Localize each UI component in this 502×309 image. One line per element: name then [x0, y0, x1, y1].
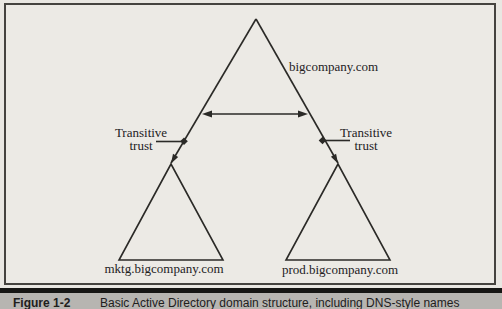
scanned-book-figure-page: bigcompany.com Transitive trust Transiti…: [0, 0, 502, 309]
figure-caption-text: Basic Active Directory domain structure,…: [100, 296, 459, 309]
figure-caption-bar: Figure 1-2 Basic Active Directory domain…: [0, 293, 502, 309]
right-transitive-trust-label: Transitive trust: [330, 126, 402, 152]
figure-border-box: [4, 3, 496, 285]
left-transitive-trust-label: Transitive trust: [105, 126, 177, 152]
left-transitive-trust-line2: trust: [105, 139, 177, 152]
right-transitive-trust-line2: trust: [330, 139, 402, 152]
root-domain-label: bigcompany.com: [289, 60, 378, 73]
prod-domain-label: prod.bigcompany.com: [270, 263, 410, 276]
figure-number-label: Figure 1-2: [13, 296, 70, 309]
mktg-domain-label: mktg.bigcompany.com: [94, 262, 234, 275]
